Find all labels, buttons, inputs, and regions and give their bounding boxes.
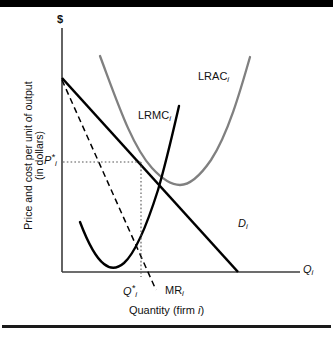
quantity-label-text: Q xyxy=(123,285,132,297)
y-axis-title: Price and cost per unit of output (in do… xyxy=(23,76,44,236)
x-axis-caption: Quantity (firm i) xyxy=(0,305,333,316)
x-axis-end-label-text: Q xyxy=(303,263,312,275)
lrmc-label-subscript: i xyxy=(169,114,171,123)
y-axis-title-line2: (in dollars) xyxy=(32,131,44,180)
mr-label-text: MR xyxy=(165,284,182,296)
dollar-axis-symbol: $ xyxy=(57,14,63,25)
lrac-label-subscript: i xyxy=(227,75,229,84)
demand-label-text: D xyxy=(238,217,246,229)
equilibrium-price-label: P*i xyxy=(44,152,57,168)
x-axis-end-label: Qi xyxy=(303,264,313,277)
bottom-divider-rule xyxy=(2,325,331,328)
x-axis-caption-suffix: ) xyxy=(200,304,204,316)
lrmc-label-text: LRMC xyxy=(138,109,169,121)
price-subscript: i xyxy=(55,159,57,168)
demand-curve-label: Di xyxy=(238,218,248,231)
lrac-curve-label: LRACi xyxy=(198,71,229,84)
lrac-label-text: LRAC xyxy=(198,70,227,82)
quantity-subscript: i xyxy=(135,290,137,299)
lrmc-curve-label: LRMCi xyxy=(138,110,171,123)
equilibrium-quantity-label: Q*i xyxy=(123,283,137,299)
demand-label-subscript: i xyxy=(246,222,248,231)
x-axis-end-subscript: i xyxy=(312,268,314,277)
mr-label-subscript: i xyxy=(182,289,184,298)
figure-container: $ Price and cost per unit of output (in … xyxy=(0,0,333,338)
x-axis-caption-prefix: Quantity (firm xyxy=(129,304,198,316)
marginal-revenue-label: MRi xyxy=(165,285,184,298)
